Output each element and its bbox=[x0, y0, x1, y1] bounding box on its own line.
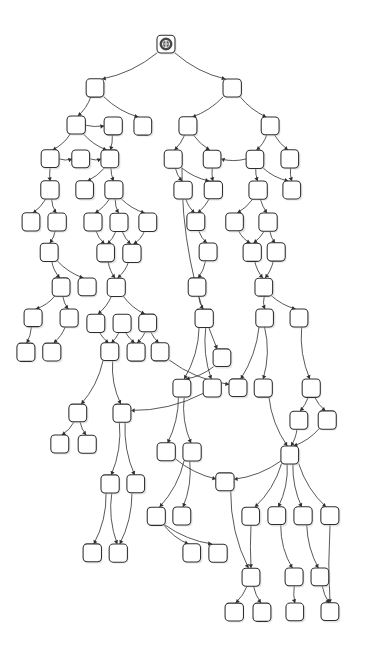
node-box[interactable] bbox=[110, 213, 128, 231]
node-box[interactable] bbox=[213, 349, 231, 367]
graph-node[interactable] bbox=[281, 446, 301, 466]
node-box[interactable] bbox=[17, 343, 35, 361]
node-box[interactable] bbox=[139, 213, 157, 231]
node-box[interactable] bbox=[203, 150, 221, 168]
graph-node[interactable] bbox=[183, 443, 202, 463]
node-box[interactable] bbox=[281, 446, 299, 464]
graph-node[interactable] bbox=[97, 244, 117, 264]
graph-node[interactable] bbox=[179, 117, 198, 137]
graph-node[interactable] bbox=[249, 181, 268, 201]
node-box[interactable] bbox=[204, 181, 222, 199]
graph-node[interactable] bbox=[318, 411, 337, 431]
node-box[interactable] bbox=[109, 544, 127, 562]
graph-node[interactable] bbox=[83, 544, 102, 564]
graph-node[interactable] bbox=[285, 568, 304, 588]
graph-node[interactable] bbox=[256, 309, 276, 329]
node-box[interactable] bbox=[87, 314, 105, 332]
graph-node[interactable] bbox=[229, 379, 248, 399]
node-box[interactable] bbox=[290, 309, 308, 327]
node-box[interactable] bbox=[203, 379, 221, 397]
graph-node[interactable] bbox=[188, 278, 207, 298]
node-box[interactable] bbox=[209, 544, 227, 562]
node-box[interactable] bbox=[226, 213, 244, 231]
graph-node[interactable] bbox=[255, 278, 274, 297]
node-box[interactable] bbox=[223, 79, 241, 97]
node-box[interactable] bbox=[229, 379, 247, 397]
node-box[interactable] bbox=[72, 150, 90, 168]
node-box[interactable] bbox=[216, 473, 234, 491]
graph-node[interactable] bbox=[203, 150, 222, 169]
graph-node[interactable] bbox=[52, 278, 71, 298]
node-box[interactable] bbox=[101, 475, 119, 493]
graph-node[interactable] bbox=[203, 379, 222, 399]
graph-node[interactable] bbox=[187, 213, 207, 233]
graph-node[interactable] bbox=[294, 507, 313, 527]
graph-node[interactable] bbox=[105, 181, 125, 201]
node-box[interactable] bbox=[83, 544, 101, 562]
node-box[interactable] bbox=[183, 443, 201, 461]
graph-node[interactable] bbox=[123, 244, 143, 263]
graph-root-node[interactable] bbox=[157, 35, 176, 54]
graph-node[interactable] bbox=[281, 150, 300, 170]
node-box[interactable] bbox=[123, 244, 141, 262]
graph-node[interactable] bbox=[87, 314, 107, 333]
node-box[interactable] bbox=[183, 544, 201, 562]
node-box[interactable] bbox=[134, 117, 152, 135]
graph-node[interactable] bbox=[243, 243, 262, 262]
graph-node[interactable] bbox=[290, 411, 309, 430]
node-box[interactable] bbox=[76, 181, 94, 199]
node-box[interactable] bbox=[48, 213, 66, 231]
node-box[interactable] bbox=[173, 507, 191, 525]
node-box[interactable] bbox=[174, 181, 192, 199]
graph-node[interactable] bbox=[78, 278, 97, 298]
graph-node[interactable] bbox=[283, 181, 303, 201]
graph-node[interactable] bbox=[311, 568, 330, 588]
node-box[interactable] bbox=[157, 443, 175, 461]
node-box[interactable] bbox=[285, 568, 303, 586]
graph-node[interactable] bbox=[40, 243, 59, 262]
graph-node[interactable] bbox=[76, 181, 96, 201]
node-box[interactable] bbox=[321, 603, 339, 621]
node-box[interactable] bbox=[78, 278, 96, 296]
graph-node[interactable] bbox=[84, 213, 103, 233]
node-box[interactable] bbox=[253, 603, 271, 621]
node-box[interactable] bbox=[290, 411, 308, 429]
node-box[interactable] bbox=[286, 603, 304, 621]
node-box[interactable] bbox=[256, 309, 274, 327]
node-box[interactable] bbox=[267, 243, 285, 261]
graph-node[interactable] bbox=[173, 379, 192, 398]
graph-node[interactable] bbox=[174, 181, 194, 200]
node-box[interactable] bbox=[242, 568, 260, 586]
graph-node[interactable] bbox=[223, 79, 242, 99]
graph-node[interactable] bbox=[127, 475, 147, 495]
node-box[interactable] bbox=[254, 379, 272, 397]
graph-node[interactable] bbox=[134, 117, 153, 137]
graph-node[interactable] bbox=[302, 379, 321, 399]
node-box[interactable] bbox=[84, 213, 102, 231]
node-box[interactable] bbox=[113, 404, 131, 422]
graph-node[interactable] bbox=[110, 213, 129, 232]
graph-node[interactable] bbox=[43, 343, 63, 363]
graph-node[interactable] bbox=[41, 181, 61, 201]
node-box[interactable] bbox=[51, 435, 69, 453]
graph-node[interactable] bbox=[195, 309, 214, 329]
node-box[interactable] bbox=[261, 117, 279, 135]
graph-node[interactable] bbox=[17, 343, 36, 362]
node-box[interactable] bbox=[243, 243, 261, 261]
node-box[interactable] bbox=[127, 343, 145, 361]
graph-node[interactable] bbox=[101, 343, 121, 363]
graph-node[interactable] bbox=[286, 603, 305, 623]
node-box[interactable] bbox=[107, 278, 125, 296]
node-box[interactable] bbox=[97, 244, 115, 262]
graph-node[interactable] bbox=[267, 243, 286, 263]
node-box[interactable] bbox=[60, 309, 78, 327]
graph-node[interactable] bbox=[127, 343, 146, 363]
graph-node[interactable] bbox=[107, 278, 126, 297]
node-box[interactable] bbox=[41, 181, 59, 199]
graph-node[interactable] bbox=[259, 213, 279, 233]
graph-node[interactable] bbox=[139, 314, 159, 333]
graph-node[interactable] bbox=[164, 150, 183, 170]
node-box[interactable] bbox=[294, 507, 312, 525]
graph-node[interactable] bbox=[253, 603, 272, 622]
node-box[interactable] bbox=[268, 507, 286, 525]
